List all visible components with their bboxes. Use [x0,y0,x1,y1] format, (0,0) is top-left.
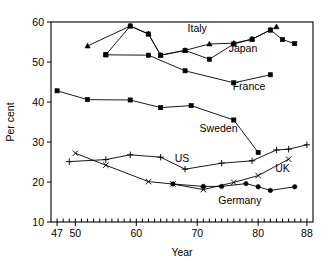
marker-circle [201,184,205,188]
marker-circle [244,181,248,185]
marker-plus [127,152,133,158]
marker-cross [103,163,108,168]
x-tick-label-47: 47 [51,227,63,239]
marker-circle [171,182,175,186]
y-axis-title: Per cent [4,102,16,141]
marker-plus [218,160,224,166]
series-line-france [106,55,271,83]
series-label-us: US [175,152,190,164]
plot-frame [51,22,313,222]
marker-square [207,57,211,61]
y-tick-label-30: 30 [32,136,44,148]
marker-square [128,98,132,102]
marker-square [256,150,260,154]
marker-cross [255,173,260,178]
y-tick-label-40: 40 [32,96,44,108]
marker-square [55,89,59,93]
series-label-germany: Germany [218,194,262,206]
marker-square [104,53,108,57]
marker-square [159,106,163,110]
chart-container: 102030405060475060708088YearPer centItal… [0,0,336,261]
y-tick-label-10: 10 [32,216,44,228]
marker-square [146,53,150,57]
marker-plus [157,154,163,160]
marker-plus [273,147,279,153]
marker-circle [293,185,297,189]
marker-square [146,32,150,36]
marker-square [85,98,89,102]
y-tick-label-50: 50 [32,56,44,68]
series-label-france: France [233,80,266,92]
line-chart: 102030405060475060708088YearPer centItal… [0,0,336,261]
x-tick-label-80: 80 [252,227,264,239]
series-label-sweden: Sweden [200,122,238,134]
marker-square [293,42,297,46]
marker-square [268,73,272,77]
marker-plus [66,158,72,164]
series-label-uk: UK [275,162,290,174]
marker-square [189,104,193,108]
series-label-japan: Japan [229,42,258,54]
marker-circle [256,185,260,189]
marker-cross [73,151,78,156]
marker-plus [285,146,291,152]
x-tick-label-50: 50 [70,227,82,239]
marker-circle [268,188,272,192]
marker-square [159,53,163,57]
marker-square [280,38,284,42]
marker-square [183,48,187,52]
x-tick-label-88: 88 [301,227,313,239]
marker-plus [249,158,255,164]
x-tick-label-60: 60 [130,227,142,239]
series-label-italy: Italy [188,22,208,34]
marker-square [268,28,272,32]
x-tick-label-70: 70 [191,227,203,239]
marker-circle [219,184,223,188]
marker-plus [103,156,109,162]
y-tick-label-60: 60 [32,16,44,28]
marker-plus [304,142,310,148]
marker-square [250,37,254,41]
x-axis-title: Year [171,246,193,258]
y-tick-label-20: 20 [32,176,44,188]
marker-triangle [274,24,279,29]
marker-square [183,69,187,73]
marker-plus [182,166,188,172]
marker-square [128,24,132,28]
